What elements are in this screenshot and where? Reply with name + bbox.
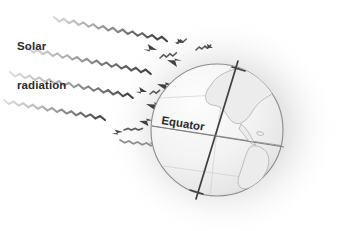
equator-label: Equator bbox=[161, 114, 206, 133]
equator-label-layer: Equator bbox=[0, 0, 340, 231]
solar-radiation-earth-diagram: Solar radiation Equator bbox=[0, 0, 340, 231]
